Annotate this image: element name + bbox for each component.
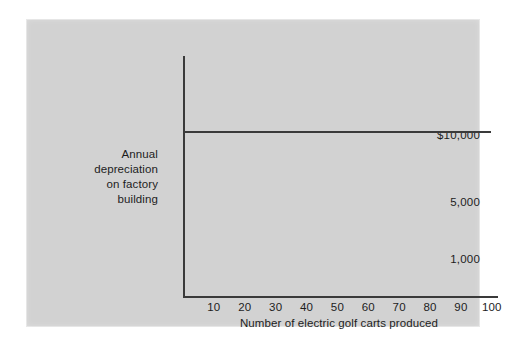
x-tick-label-10: 10 xyxy=(197,301,231,313)
x-tick-label-100: 100 xyxy=(475,301,508,313)
x-tick-label-40: 40 xyxy=(290,301,324,313)
series-line-fixed-cost xyxy=(183,131,491,133)
y-axis-line xyxy=(183,56,185,298)
figure-root: Annual depreciation on factory building … xyxy=(0,0,508,343)
x-tick-label-row: 102030405060708090100 xyxy=(183,301,503,317)
x-tick-label-90: 90 xyxy=(444,301,478,313)
y-axis-title-line-1: Annual xyxy=(46,147,158,162)
y-axis-title-line-4: building xyxy=(46,192,158,207)
chart-panel: Annual depreciation on factory building … xyxy=(26,19,480,327)
y-tick-label-5000: 5,000 xyxy=(330,196,480,208)
x-axis-title: Number of electric golf carts produced xyxy=(183,317,495,329)
x-tick-label-50: 50 xyxy=(320,301,354,313)
y-tick-label-1000: 1,000 xyxy=(330,253,480,265)
y-axis-title: Annual depreciation on factory building xyxy=(46,147,158,207)
x-tick-label-70: 70 xyxy=(382,301,416,313)
y-axis-title-line-2: depreciation xyxy=(46,162,158,177)
x-tick-label-60: 60 xyxy=(351,301,385,313)
x-tick-label-30: 30 xyxy=(259,301,293,313)
x-axis-line xyxy=(183,296,498,298)
y-axis-title-line-3: on factory xyxy=(46,177,158,192)
x-tick-label-80: 80 xyxy=(413,301,447,313)
x-tick-label-20: 20 xyxy=(228,301,262,313)
